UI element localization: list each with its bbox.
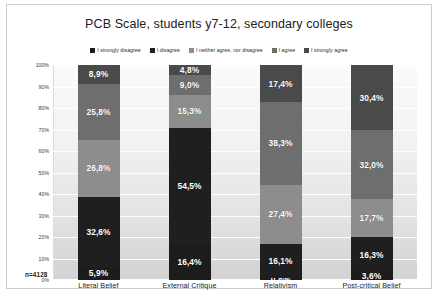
legend-item[interactable]: I neither agree, nor disagree — [189, 47, 263, 53]
bar-segment-value-label: 3,6% — [362, 272, 382, 280]
bar-segment-value-label: 38,3% — [268, 139, 292, 147]
bar-segment-value-label: 17,7% — [359, 214, 383, 222]
x-axis-category-label: Post-critical Belief — [326, 281, 417, 290]
y-axis-tick-label: 50% — [39, 170, 49, 176]
bar-segment[interactable]: 54,5% — [169, 128, 211, 245]
bar-segment-value-label: 5,9% — [89, 269, 109, 277]
bar-group[interactable]: 3,6%16,3%17,7%32,0%30,4% — [351, 65, 393, 280]
bar-segment[interactable]: 5,9% — [78, 267, 120, 280]
bar-segment[interactable]: 9,0% — [169, 75, 211, 94]
bar-segment-value-label: 30,4% — [359, 94, 383, 102]
bar-segment[interactable]: 17,4% — [260, 65, 302, 102]
y-axis-tick-label: 80% — [39, 105, 49, 111]
y-axis-tick-label: 90% — [39, 84, 49, 90]
y-axis-tick-label: 30% — [39, 213, 49, 219]
bar-segment-value-label: 16,1% — [268, 257, 292, 265]
bar-segment-value-label: 16,4% — [177, 258, 201, 266]
x-axis: Literal BeliefExternal CritiqueRelativis… — [53, 281, 417, 293]
bar-segment-value-label: 16,3% — [359, 251, 383, 259]
chart-title: PCB Scale, students y7-12, secondary col… — [7, 17, 431, 31]
chart-frame: PCB Scale, students y7-12, secondary col… — [6, 4, 432, 289]
bar-segment[interactable]: 17,7% — [351, 199, 393, 237]
bar-segment-value-label: 17,4% — [268, 80, 292, 88]
legend-item-label: I agree — [279, 47, 296, 53]
bar-segment[interactable]: 15,3% — [169, 95, 211, 128]
bar-segment[interactable]: 0,8% — [260, 278, 302, 280]
bar-group[interactable]: 5,9%32,6%26,8%25,8%8,9% — [78, 65, 120, 280]
bar-segment-value-label: 15,3% — [177, 107, 201, 115]
bar-segment-value-label: 8,9% — [89, 70, 109, 78]
bar-segment[interactable]: 16,3% — [351, 237, 393, 272]
legend-swatch-icon — [272, 48, 277, 53]
legend-item[interactable]: I agree — [272, 47, 296, 53]
bar-segment[interactable]: 26,8% — [78, 140, 120, 198]
bar-segment[interactable]: 4,8% — [169, 65, 211, 75]
legend-item-label: I strongly disagree — [97, 47, 140, 53]
x-axis-category-label: External Critique — [144, 281, 235, 290]
bar-group[interactable]: 16,4%54,5%15,3%9,0%4,8% — [169, 65, 211, 280]
figure-caption — [2, 293, 432, 303]
bar-segment-value-label: 27,4% — [268, 210, 292, 218]
legend-item-label: I neither agree, nor disagree — [196, 47, 263, 53]
bar-segment[interactable]: 32,0% — [351, 130, 393, 199]
bar-series-container: 5,9%32,6%26,8%25,8%8,9%16,4%54,5%15,3%9,… — [53, 65, 417, 280]
bar-segment[interactable]: 16,1% — [260, 244, 302, 279]
bar-segment[interactable]: 25,8% — [78, 84, 120, 139]
legend-swatch-icon — [150, 48, 155, 53]
bar-segment-value-label: 54,5% — [177, 182, 201, 190]
legend-swatch-icon — [304, 48, 309, 53]
chart-screenshot: PCB Scale, students y7-12, secondary col… — [0, 0, 439, 303]
bar-segment[interactable]: 32,6% — [78, 197, 120, 267]
bar-segment-value-label: 9,0% — [180, 81, 200, 89]
legend-item[interactable]: I disagree — [150, 47, 180, 53]
legend-item[interactable]: I strongly agree — [304, 47, 348, 53]
bar-segment[interactable]: 3,6% — [351, 272, 393, 280]
y-axis: 100%90%80%70%60%50%40%30%20%10%0% — [21, 65, 51, 280]
bar-segment-value-label: 4,8% — [180, 66, 200, 74]
bar-segment[interactable]: 30,4% — [351, 65, 393, 130]
sample-size-label: n=4128 — [25, 271, 47, 278]
y-axis-tick-label: 60% — [39, 148, 49, 154]
bar-segment-value-label: 32,0% — [359, 161, 383, 169]
bar-segment-value-label: 25,8% — [86, 108, 110, 116]
bar-segment-value-label: 26,8% — [86, 164, 110, 172]
bar-group[interactable]: 0,8%16,1%27,4%38,3%17,4% — [260, 65, 302, 280]
chart-legend: I strongly disagreeI disagreeI neither a… — [7, 47, 431, 53]
legend-item[interactable]: I strongly disagree — [90, 47, 140, 53]
legend-item-label: I disagree — [157, 47, 180, 53]
legend-swatch-icon — [90, 48, 95, 53]
legend-swatch-icon — [189, 48, 194, 53]
bar-segment[interactable]: 16,4% — [169, 245, 211, 280]
x-axis-category-label: Relativism — [235, 281, 326, 290]
bar-segment-value-label: 0,8% — [271, 278, 291, 280]
bar-segment[interactable]: 27,4% — [260, 185, 302, 244]
bar-segment-value-label: 32,6% — [86, 228, 110, 236]
bar-segment[interactable]: 38,3% — [260, 102, 302, 184]
y-axis-tick-label: 100% — [36, 62, 49, 68]
y-axis-tick-label: 40% — [39, 191, 49, 197]
legend-item-label: I strongly agree — [311, 47, 348, 53]
y-axis-tick-label: 10% — [39, 256, 49, 262]
y-axis-tick-label: 20% — [39, 234, 49, 240]
x-axis-category-label: Literal Belief — [53, 281, 144, 290]
y-axis-tick-label: 70% — [39, 127, 49, 133]
bar-segment[interactable]: 8,9% — [78, 65, 120, 84]
